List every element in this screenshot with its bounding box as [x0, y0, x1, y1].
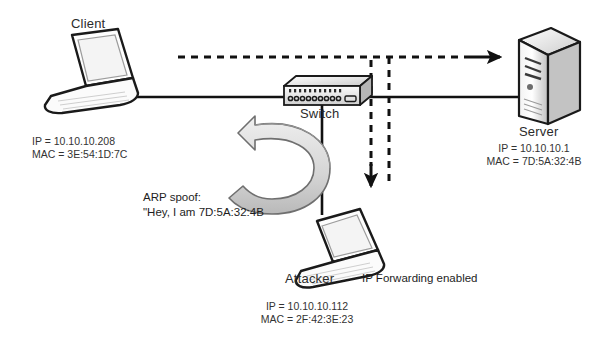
- client-ip: IP = 10.10.10.208: [32, 135, 127, 148]
- attacker-ip: IP = 10.10.10.112: [232, 300, 382, 313]
- client-details: IP = 10.10.10.208 MAC = 3E:54:1D:7C: [32, 135, 127, 161]
- server-tower-icon: [519, 28, 580, 124]
- switch-label: Switch: [300, 106, 340, 121]
- server-mac: MAC = 7D:5A:32:4B: [470, 155, 598, 168]
- server-ip: IP = 10.10.10.1: [470, 142, 598, 155]
- server-label: Server: [519, 124, 559, 139]
- client-laptop-icon: [45, 29, 138, 113]
- attacker-label: Attacker: [285, 271, 334, 286]
- client-label: Client: [71, 16, 105, 31]
- arp-spoof-line-1: ARP spoof:: [143, 190, 264, 205]
- arp-spoof-line-2: "Hey, I am 7D:5A:32:4B: [143, 205, 264, 220]
- switch-icon: [284, 76, 372, 105]
- attacker-details: IP = 10.10.10.112 MAC = 2F:42:3E:23: [232, 300, 382, 326]
- diagram-canvas: [0, 0, 604, 350]
- attacker-mac: MAC = 2F:42:3E:23: [232, 313, 382, 326]
- network-diagram: Client IP = 10.10.10.208 MAC = 3E:54:1D:…: [0, 0, 604, 350]
- arp-spoof-annotation: ARP spoof: "Hey, I am 7D:5A:32:4B: [143, 190, 264, 220]
- ip-forwarding-label: IP Forwarding enabled: [362, 272, 478, 284]
- client-mac: MAC = 3E:54:1D:7C: [32, 148, 127, 161]
- server-details: IP = 10.10.10.1 MAC = 7D:5A:32:4B: [470, 142, 598, 168]
